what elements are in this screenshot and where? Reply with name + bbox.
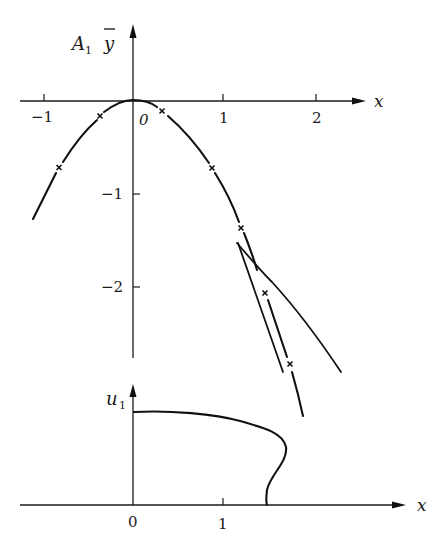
bottom-y-label-main: u (106, 388, 118, 409)
top-x-axis-label: x (374, 91, 384, 111)
top-plot: x A 1 y −1 0 1 2 −1 −2 (20, 24, 384, 416)
top-x-tick-label-2: 2 (312, 109, 322, 127)
marker-x-icon (98, 114, 103, 119)
top-straight-branch (238, 243, 283, 372)
marker-x-icon (288, 362, 293, 367)
bottom-plot: x u 1 0 1 (20, 384, 427, 533)
bottom-x-axis-label: x (417, 495, 427, 515)
marker-x-icon (57, 165, 62, 170)
marker-x-icon (239, 226, 244, 231)
top-curved-branch (237, 243, 341, 372)
bottom-x-tick-label-0: 0 (128, 513, 138, 531)
top-main-curve (33, 100, 303, 416)
top-x-tick-label-1: 1 (219, 109, 229, 127)
top-y-axis-arrow-icon (130, 24, 137, 38)
top-x-tick-label-0: 0 (139, 111, 149, 129)
marker-x-icon (210, 166, 215, 171)
bottom-y-label-sub: 1 (119, 399, 126, 412)
top-y-tick-label-neg2: −2 (101, 278, 123, 296)
marker-x-icon (263, 291, 268, 296)
marker-x-icon (160, 109, 165, 114)
bottom-y-axis-label: u 1 (106, 388, 126, 412)
top-y-axis-label: A 1 y (70, 29, 115, 57)
top-y-label-var: y (103, 33, 115, 54)
bottom-y-axis-arrow-icon (130, 384, 137, 397)
bottom-x-axis-arrow-icon (392, 502, 406, 509)
figure: x A 1 y −1 0 1 2 −1 −2 (0, 0, 448, 547)
top-y-label-main: A (70, 33, 85, 54)
top-x-tick-label-neg1: −1 (31, 108, 53, 126)
bottom-u1-curve (134, 411, 286, 505)
top-y-tick-label-neg1: −1 (101, 185, 123, 203)
top-x-markers (57, 109, 293, 367)
top-y-label-sub: 1 (85, 44, 92, 57)
bottom-x-tick-label-1: 1 (218, 515, 228, 533)
top-x-axis-arrow-icon (352, 98, 366, 105)
